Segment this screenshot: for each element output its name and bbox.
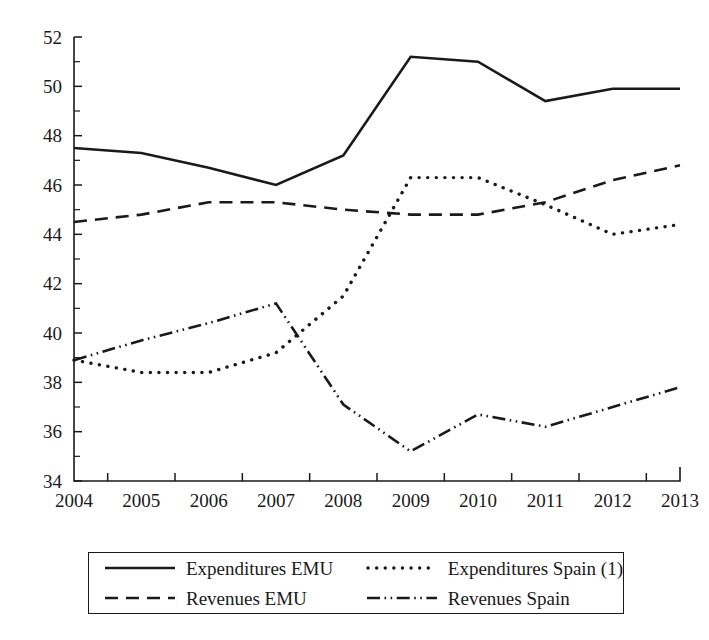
legend-item-expenditures-spain: Expenditures Spain (1) xyxy=(351,559,623,578)
x-tick-label: 2012 xyxy=(594,490,632,511)
x-tick-label: 2011 xyxy=(527,490,564,511)
chart-canvas: 34363840424446485052 2004200520062007200… xyxy=(0,0,709,640)
x-axis-ticks xyxy=(108,473,647,481)
x-tick-label: 2004 xyxy=(55,490,94,511)
x-tick-label: 2006 xyxy=(190,490,228,511)
y-tick-label: 46 xyxy=(43,175,62,196)
y-tick-label: 38 xyxy=(43,372,62,393)
y-axis-minor-ticks xyxy=(74,62,80,457)
series-line-revenues-spain xyxy=(74,303,680,451)
y-tick-label: 44 xyxy=(43,224,63,245)
chart-axes: 34363840424446485052 2004200520062007200… xyxy=(43,27,699,512)
x-tick-label: 2010 xyxy=(459,490,497,511)
legend-item-revenues-emu: Revenues EMU xyxy=(89,589,351,608)
legend-label-revenues-spain: Revenues Spain xyxy=(448,589,570,608)
y-tick-label: 48 xyxy=(43,125,62,146)
chart-legend: Expenditures EMU Expenditures Spain (1) … xyxy=(88,552,624,614)
series-line-revenues-emu xyxy=(74,165,680,222)
series-line-expenditures-emu xyxy=(74,57,680,185)
line-chart: 34363840424446485052 2004200520062007200… xyxy=(0,0,709,640)
x-tick-label: 2013 xyxy=(661,490,699,511)
x-tick-label: 2009 xyxy=(392,490,430,511)
x-tick-label: 2005 xyxy=(122,490,160,511)
series-line-expenditures-spain-1 xyxy=(74,178,680,373)
chart-series-group xyxy=(74,57,680,452)
legend-swatch-solid-icon xyxy=(103,561,177,575)
x-tick-label: 2007 xyxy=(257,490,295,511)
legend-item-revenues-spain: Revenues Spain xyxy=(351,589,623,608)
x-axis-tick-labels: 2004200520062007200820092010201120122013 xyxy=(55,490,699,511)
legend-swatch-dashdot-icon xyxy=(365,591,439,605)
y-tick-label: 40 xyxy=(43,323,62,344)
legend-label-expenditures-spain: Expenditures Spain (1) xyxy=(448,559,623,578)
legend-item-expenditures-emu: Expenditures EMU xyxy=(89,559,351,578)
y-tick-label: 42 xyxy=(43,273,62,294)
y-tick-label: 34 xyxy=(43,471,63,492)
y-tick-label: 50 xyxy=(43,76,62,97)
y-axis-tick-labels: 34363840424446485052 xyxy=(43,27,63,492)
legend-swatch-dotted-icon xyxy=(365,561,439,575)
y-tick-label: 36 xyxy=(43,421,62,442)
x-tick-label: 2008 xyxy=(324,490,362,511)
legend-swatch-dashed-icon xyxy=(103,591,177,605)
legend-label-expenditures-emu: Expenditures EMU xyxy=(186,559,333,578)
y-tick-label: 52 xyxy=(43,27,62,48)
legend-label-revenues-emu: Revenues EMU xyxy=(186,589,307,608)
